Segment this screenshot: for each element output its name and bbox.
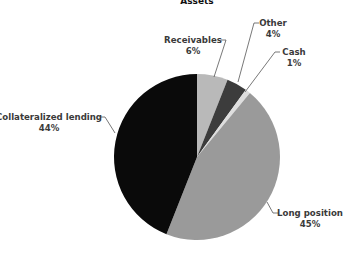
- label-cash-value: 1%: [287, 58, 302, 68]
- label-receivables-name: Receivables: [164, 35, 222, 45]
- label-long-position-value: 45%: [300, 219, 321, 229]
- label-receivables-value: 6%: [186, 46, 201, 56]
- label-cash-name: Cash: [282, 47, 305, 57]
- chart-title: Assets: [180, 0, 213, 6]
- assets-pie-chart: Assets Receivables 6% Other 4% Cash 1% L…: [0, 0, 348, 254]
- leader-collateralized-lending: [100, 117, 115, 133]
- leader-cash: [245, 52, 280, 92]
- label-collateralized-lending-value: 44%: [39, 123, 60, 133]
- leader-other: [238, 23, 259, 82]
- pie-slices: [114, 74, 280, 240]
- label-collateralized-lending-name: Collateralized lending: [0, 112, 102, 122]
- label-other-value: 4%: [266, 29, 281, 39]
- label-long-position-name: Long position: [277, 208, 343, 218]
- label-other-name: Other: [259, 18, 287, 28]
- leader-receivables: [214, 40, 226, 77]
